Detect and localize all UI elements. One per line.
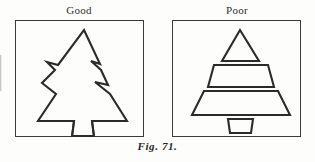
poor-shape-trapezoid-middle bbox=[208, 65, 274, 87]
drawing-poor-tree bbox=[172, 20, 301, 137]
figure-caption: Fig. 71. bbox=[0, 140, 315, 152]
panel-label-poor: Poor bbox=[172, 3, 302, 17]
drawing-good-trunk bbox=[15, 20, 144, 137]
panel-label-good: Good bbox=[14, 3, 144, 17]
scan-edge-artifact bbox=[0, 55, 2, 91]
poor-shape-trapezoid-bottom bbox=[192, 91, 290, 115]
poor-shape-triangle-top bbox=[222, 30, 259, 61]
figure-71: Good Poor Fig. 71. bbox=[0, 0, 315, 162]
tree-trunk-good-path bbox=[72, 121, 94, 136]
poor-shape-trunk bbox=[228, 119, 253, 133]
